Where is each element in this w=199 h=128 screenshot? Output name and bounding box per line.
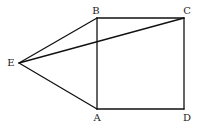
segment-eb — [19, 18, 97, 63]
vertex-labels: A B C D E — [7, 5, 191, 123]
label-c: C — [183, 5, 191, 16]
segments — [19, 18, 184, 109]
geometry-figure: A B C D E — [0, 0, 199, 128]
label-d: D — [183, 112, 191, 123]
segment-ea — [19, 63, 97, 109]
segment-ec — [19, 18, 184, 63]
label-a: A — [92, 112, 101, 123]
label-e: E — [7, 57, 14, 68]
figure-svg: A B C D E — [0, 0, 199, 128]
label-b: B — [92, 5, 99, 16]
